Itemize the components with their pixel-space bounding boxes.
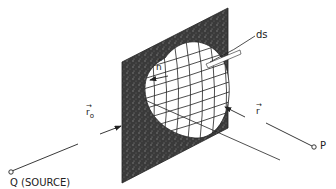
source-label: Q (SOURCE) — [10, 178, 70, 188]
diagram-canvas — [0, 0, 336, 189]
observation-point-p — [312, 145, 316, 149]
observation-label: P — [320, 141, 326, 151]
source-vector-subscript: o — [90, 112, 94, 120]
source-point-q — [9, 170, 13, 174]
observer-vector-line-lower — [266, 123, 312, 146]
vector-arrow-icon: → — [86, 102, 92, 111]
normal-label: ^ n — [156, 63, 162, 72]
observer-vector-label: → r — [256, 107, 260, 116]
vector-arrow-icon: → — [256, 101, 262, 110]
source-vector-line-lower — [12, 144, 78, 171]
source-vector-label: → ro — [86, 108, 94, 121]
source-vector-line-upper — [100, 126, 121, 134]
normal-hat: ^ — [157, 58, 163, 67]
ds-label: ds — [256, 30, 268, 40]
